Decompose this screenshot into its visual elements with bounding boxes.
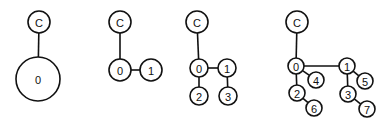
stage-3-nodes: C0123 [186, 11, 237, 105]
tree-node-6: 6 [306, 100, 322, 116]
node-label: 0 [117, 65, 123, 77]
node-label: 2 [196, 91, 202, 103]
node-label: C [35, 17, 43, 29]
node-label: 6 [311, 103, 317, 115]
node-label: C [193, 17, 201, 29]
tree-node-5: 5 [357, 73, 373, 89]
node-label: 0 [293, 61, 299, 73]
node-label: 3 [225, 91, 231, 103]
node-label: 4 [313, 75, 319, 87]
tree-node-0: 0 [288, 58, 304, 74]
node-label: 1 [344, 61, 350, 73]
edge-2-6 [303, 98, 308, 102]
node-label: 1 [148, 65, 154, 77]
tree-node-3: 3 [219, 87, 237, 105]
tree-node-0: 0 [16, 57, 60, 101]
node-label: C [116, 17, 124, 29]
node-label: 2 [294, 88, 300, 100]
node-label: 1 [224, 63, 230, 75]
node-label: 3 [345, 89, 351, 101]
tree-node-7: 7 [359, 101, 375, 117]
tree-node-1: 1 [218, 59, 236, 77]
edge-1-5 [353, 71, 359, 76]
tree-node-1: 1 [339, 58, 355, 74]
tree-node-3: 3 [340, 86, 356, 102]
root-node-c: C [109, 11, 131, 33]
node-label: 7 [364, 104, 370, 116]
edge-C-0 [296, 33, 297, 58]
tree-node-2: 2 [190, 87, 208, 105]
nodes-layer: C0C01C0123C01452367 [16, 11, 375, 117]
node-label: C [293, 17, 301, 29]
node-label: 0 [196, 63, 202, 75]
node-label: 0 [35, 74, 41, 86]
edge-0-4 [303, 71, 310, 76]
tree-growth-diagram: C0C01C0123C01452367 [0, 0, 391, 125]
tree-node-0: 0 [109, 59, 131, 81]
tree-node-4: 4 [308, 72, 324, 88]
root-node-c: C [286, 11, 308, 33]
tree-node-2: 2 [289, 85, 305, 101]
tree-node-0: 0 [190, 59, 208, 77]
root-node-c: C [28, 11, 50, 33]
node-label: 5 [362, 76, 368, 88]
edge-C-0 [197, 33, 198, 59]
stage-4-nodes: C01452367 [286, 11, 375, 117]
tree-node-1: 1 [140, 59, 162, 81]
edge-3-7 [354, 99, 360, 104]
root-node-c: C [186, 11, 208, 33]
